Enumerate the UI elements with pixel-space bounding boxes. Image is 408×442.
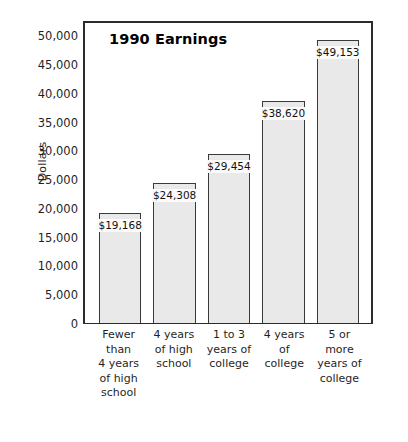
x-axis-category-line: 4 years — [92, 357, 145, 372]
x-axis-category-line: school — [147, 357, 200, 372]
x-axis-category-label: 4 yearsofcollege — [257, 328, 312, 401]
bar-value-label: $24,308 — [152, 189, 197, 202]
bar: $29,454 — [208, 154, 250, 323]
bar-slot: $49,153 — [311, 23, 365, 323]
bar: $24,308 — [153, 183, 195, 323]
bar-slot: $24,308 — [147, 23, 201, 323]
x-axis-category-line: college — [258, 357, 311, 372]
bar: $49,153 — [317, 40, 359, 323]
y-axis-tick-label: 20,000 — [12, 202, 78, 216]
bar-value-label: $38,620 — [261, 107, 306, 120]
x-axis-category-line: 4 years — [258, 328, 311, 343]
x-axis-category-line: 1 to 3 — [202, 328, 255, 343]
x-axis-category-label: 5 ormoreyears ofcollege — [312, 328, 367, 401]
plot-area: 1990 Earnings $19,168$24,308$29,454$38,6… — [83, 21, 373, 324]
x-axis-category-line: than — [92, 343, 145, 358]
y-axis-tick-labels: 05,00010,00015,00020,00025,00030,00035,0… — [12, 22, 78, 324]
x-axis-category-line: years of — [313, 357, 366, 372]
y-axis-tick-label: 30,000 — [12, 144, 78, 158]
x-axis-category-line: of high — [92, 372, 145, 387]
y-axis-tick-label: 50,000 — [12, 29, 78, 43]
y-axis-tick-label: 35,000 — [12, 116, 78, 130]
y-axis-tick-label: 5,000 — [12, 288, 78, 302]
x-axis-category-line: Fewer — [92, 328, 145, 343]
y-axis-tick-label: 15,000 — [12, 231, 78, 245]
y-axis-tick-label: 0 — [12, 317, 78, 331]
x-axis-category-line: 5 or — [313, 328, 366, 343]
x-axis-category-label: Fewerthan4 yearsof highschool — [91, 328, 146, 401]
x-axis-category-line: school — [92, 386, 145, 401]
bar-value-label: $19,168 — [97, 219, 142, 232]
bar-slot: $19,168 — [93, 23, 147, 323]
chart-figure: Dollars 05,00010,00015,00020,00025,00030… — [0, 0, 408, 442]
x-axis-category-line: college — [202, 357, 255, 372]
x-axis-category-line: years of — [202, 343, 255, 358]
x-axis-category-labels: Fewerthan4 yearsof highschool4 yearsof h… — [83, 328, 373, 401]
x-axis-category-line: of — [258, 343, 311, 358]
bar-value-label: $29,454 — [206, 160, 251, 173]
bar: $38,620 — [262, 101, 304, 323]
x-axis-category-label: 4 yearsof highschool — [146, 328, 201, 401]
x-axis-category-line: of high — [147, 343, 200, 358]
y-axis-tick-label: 45,000 — [12, 58, 78, 72]
y-axis-tick-label: 40,000 — [12, 87, 78, 101]
x-axis-category-label: 1 to 3years ofcollege — [201, 328, 256, 401]
y-axis-tick-label: 25,000 — [12, 173, 78, 187]
x-axis-category-line: 4 years — [147, 328, 200, 343]
x-axis-category-line: more — [313, 343, 366, 358]
bar-series: $19,168$24,308$29,454$38,620$49,153 — [85, 23, 371, 323]
bar-slot: $29,454 — [202, 23, 256, 323]
y-axis-tick-label: 10,000 — [12, 259, 78, 273]
bar-slot: $38,620 — [256, 23, 310, 323]
x-axis-category-line: college — [313, 372, 366, 387]
bar: $19,168 — [99, 213, 141, 323]
bar-value-label: $49,153 — [315, 46, 360, 59]
